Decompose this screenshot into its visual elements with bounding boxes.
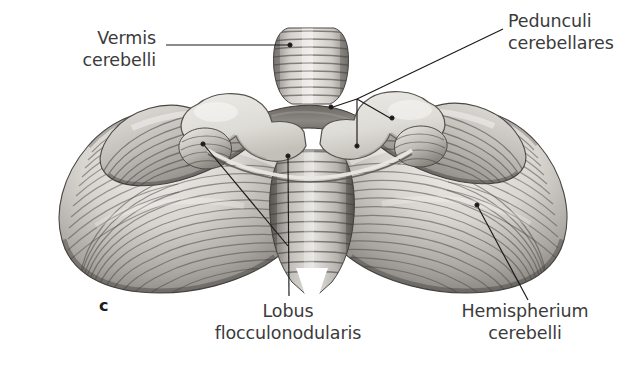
label-lobus-flocculonodularis: Lobus flocculonodularis [188,300,388,344]
label-vermis-cerebelli: Vermis cerebelli [0,27,156,71]
label-pedunculi-line1: Pedunculi [508,10,614,32]
label-hemispherium-cerebelli: Hemispherium cerebelli [435,300,615,344]
label-pedunculi-line2: cerebellares [508,32,614,54]
vermis-leader [166,43,292,47]
label-lobus-line2: flocculonodularis [188,322,388,344]
label-hemispherium-line2: cerebelli [435,322,615,344]
label-lobus-line1: Lobus [188,300,388,322]
label-vermis-line2: cerebelli [0,49,156,71]
label-pedunculi-cerebellares: Pedunculi cerebellares [508,10,614,54]
figure-letter: c [99,296,108,315]
label-hemispherium-line1: Hemispherium [435,300,615,322]
label-vermis-line1: Vermis [0,27,156,49]
vermis-superior [268,26,354,106]
cerebellum-figure: Vermis cerebelli Pedunculi cerebellares … [0,0,630,369]
